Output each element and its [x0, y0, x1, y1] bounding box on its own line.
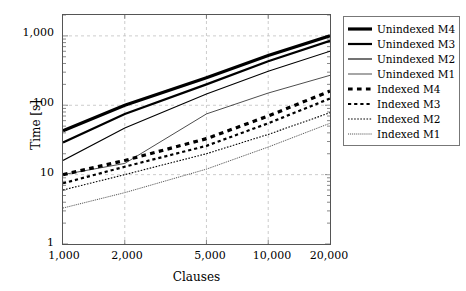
legend-label: Indexed M2 [377, 113, 440, 125]
legend-item: Indexed M1 [347, 126, 455, 141]
series-line [63, 51, 330, 160]
x-tick-label-10000: 10,000 [253, 250, 292, 261]
legend-swatch-solid-icon [347, 53, 373, 65]
legend-label: Unindexed M1 [377, 68, 455, 80]
series-line [63, 91, 330, 175]
legend-swatch-dashed-icon [347, 113, 373, 125]
legend-item: Unindexed M1 [347, 66, 455, 81]
plot-svg [63, 15, 330, 244]
x-tick-label-1000: 1,000 [48, 250, 80, 261]
legend-swatch-solid-icon [347, 68, 373, 80]
legend-label: Unindexed M2 [377, 53, 455, 65]
y-axis-title: Time [s] [29, 85, 43, 165]
legend-swatch-dashed-icon [347, 128, 373, 140]
y-tick-label-1000: 1,000 [2, 27, 54, 38]
x-tick-label-5000: 5,000 [194, 250, 226, 261]
legend-item: Unindexed M3 [347, 36, 455, 51]
legend-item: Indexed M3 [347, 96, 455, 111]
legend-swatch-solid-icon [347, 38, 373, 50]
series-line [63, 123, 330, 208]
legend-item: Unindexed M4 [347, 21, 455, 36]
legend-swatch-dashed-icon [347, 98, 373, 110]
plot-area [62, 14, 331, 245]
legend-label: Indexed M4 [377, 83, 440, 95]
series-line [63, 36, 330, 131]
chart-legend: Unindexed M4Unindexed M3Unindexed M2Unin… [343, 16, 460, 146]
legend-item: Indexed M4 [347, 81, 455, 96]
x-axis-title: Clauses [62, 270, 331, 284]
x-tick-label-20000: 20,000 [310, 250, 349, 261]
legend-item: Indexed M2 [347, 111, 455, 126]
legend-swatch-dashed-icon [347, 83, 373, 95]
y-tick-label-1: 1 [2, 237, 54, 248]
chart-figure: 1,000 100 10 1 Time [s] 1,000 2,000 5,00… [0, 0, 466, 291]
legend-item: Unindexed M2 [347, 51, 455, 66]
y-tick-label-10: 10 [2, 167, 54, 178]
legend-label: Unindexed M4 [377, 23, 455, 35]
x-tick-label-2000: 2,000 [111, 250, 143, 261]
legend-label: Indexed M1 [377, 128, 440, 140]
y-tick-label-100: 100 [2, 97, 54, 108]
legend-label: Indexed M3 [377, 98, 440, 110]
legend-label: Unindexed M3 [377, 38, 455, 50]
legend-swatch-solid-icon [347, 23, 373, 35]
